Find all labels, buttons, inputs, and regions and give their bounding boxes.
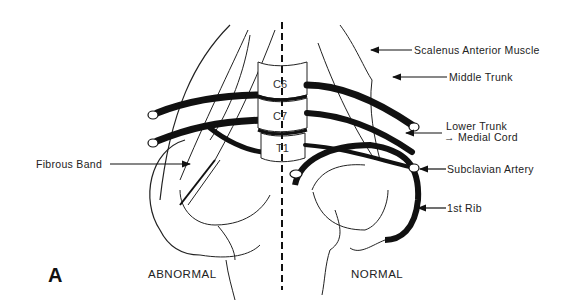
label-subclavian-artery: Subclavian Artery [447,163,534,175]
label-middle-trunk: Middle Trunk [449,71,513,83]
label-scalenus-anterior: Scalenus Anterior Muscle [414,44,540,56]
right-side-normal [295,25,418,295]
caption-normal: NORMAL [351,268,403,280]
left-nerve-trunks [157,95,262,152]
vertebra-t1-label: T1 [276,142,289,154]
label-medial-cord: → Medial Cord [444,131,518,143]
vertebra-c6-label: C6 [273,78,287,90]
panel-letter: A [48,264,62,287]
caption-abnormal: ABNORMAL [148,268,217,280]
vertebra-c7-label: C7 [273,110,287,122]
label-fibrous-band: Fibrous Band [36,158,102,170]
anatomy-figure: C6 C7 T1 Scalenus Anterior Muscle Middle… [0,0,579,307]
label-first-rib: 1st Rib [447,202,482,214]
left-side-abnormal [150,25,275,300]
